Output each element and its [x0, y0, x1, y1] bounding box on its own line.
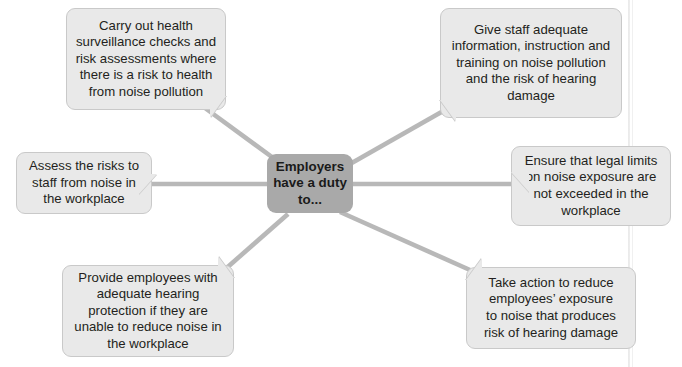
node-reduce-exposure-label: Take action to reduce employees’ exposur… [475, 275, 627, 341]
node-legal-limits[interactable]: Ensure that legal limits on noise exposu… [511, 146, 671, 226]
connector-information-training [350, 110, 445, 164]
node-information-training[interactable]: Give staff adequate information, instruc… [440, 8, 622, 118]
node-information-training-label: Give staff adequate information, instruc… [449, 22, 613, 105]
center-node-label: Employers have a duty to... [267, 159, 353, 208]
connector-reduce-exposure [340, 212, 470, 270]
node-assess-risks[interactable]: Assess the risks to staff from noise in … [16, 152, 152, 214]
node-assess-risks-tail [139, 174, 157, 194]
node-health-surveillance-tail [210, 96, 226, 118]
diagram-canvas: Carry out health surveillance checks and… [0, 0, 682, 367]
node-assess-risks-label: Assess the risks to staff from noise in … [25, 158, 143, 208]
node-hearing-protection[interactable]: Provide employees with adequate hearing … [62, 265, 234, 357]
node-reduce-exposure-tail [466, 258, 482, 280]
node-hearing-protection-tail [218, 256, 234, 278]
node-health-surveillance[interactable]: Carry out health surveillance checks and… [66, 8, 226, 110]
node-reduce-exposure[interactable]: Take action to reduce employees’ exposur… [466, 267, 636, 349]
node-health-surveillance-label: Carry out health surveillance checks and… [75, 18, 217, 101]
node-legal-limits-tail [511, 172, 529, 192]
node-information-training-tail [440, 100, 456, 122]
node-legal-limits-label: Ensure that legal limits on noise exposu… [520, 153, 662, 219]
node-hearing-protection-label: Provide employees with adequate hearing … [71, 270, 225, 353]
center-node-employers-duty[interactable]: Employers have a duty to... [267, 154, 353, 213]
